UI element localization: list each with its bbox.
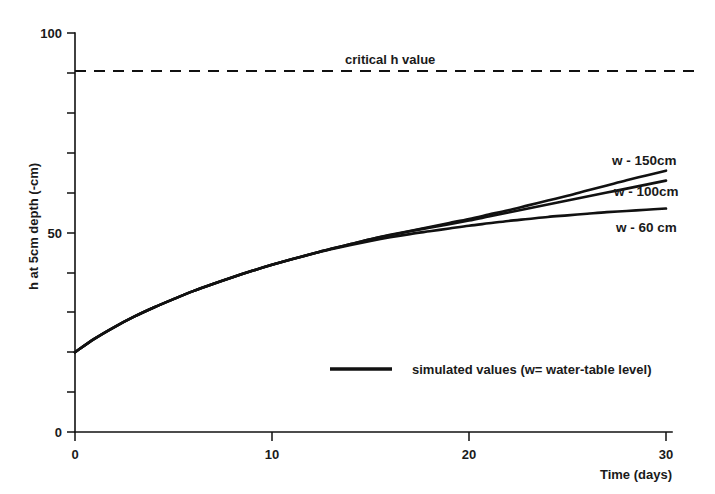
y-axis-title: h at 5cm depth (-cm) (26, 163, 41, 290)
x-axis-title: Time (days) (600, 467, 672, 482)
y-tick-label-100: 100 (40, 26, 62, 41)
chart-background (0, 0, 715, 494)
x-tick-label-10: 10 (265, 447, 279, 462)
x-tick-label-30: 30 (659, 447, 673, 462)
series-label-w-100cm: w - 100cm (613, 184, 679, 199)
legend-label-simulated: simulated values (w= water-table level) (412, 362, 652, 377)
critical-threshold-label: critical h value (345, 52, 435, 67)
x-tick-label-20: 20 (462, 447, 476, 462)
y-tick-label-0: 0 (55, 425, 62, 440)
x-tick-label-0: 0 (71, 447, 78, 462)
chart-figure: 100 50 0 0 10 20 30 h at 5cm depth (-cm)… (0, 0, 715, 494)
y-tick-label-50: 50 (48, 226, 62, 241)
series-label-w-150cm: w - 150cm (611, 153, 677, 168)
series-label-w-60cm: w - 60 cm (615, 220, 677, 235)
chart-canvas: 100 50 0 0 10 20 30 h at 5cm depth (-cm)… (0, 0, 715, 494)
